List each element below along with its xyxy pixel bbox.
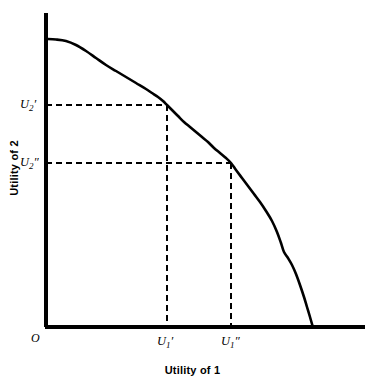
y-tick-u2-double-prime-base: U	[20, 155, 29, 169]
x-tick-u1-prime-base: U	[157, 334, 166, 348]
y-tick-u2-prime-mark: ′	[34, 97, 36, 111]
y-tick-u2-double-prime-mark: ″	[34, 155, 39, 169]
origin-label: O	[31, 331, 40, 346]
utility-possibility-frontier-figure: Utility of 2 Utility of 1 U2′ U2″ U1′ U1…	[0, 0, 385, 383]
x-tick-u1-prime-mark: ′	[171, 334, 173, 348]
axes-group	[45, 13, 365, 327]
y-tick-label-u2-prime: U2′	[20, 97, 36, 113]
x-tick-u1-double-prime-mark: ″	[235, 334, 240, 348]
y-axis-title: Utility of 2	[8, 118, 20, 218]
chart-canvas	[0, 0, 385, 383]
frontier-curve	[46, 39, 313, 327]
x-tick-label-u1-prime: U1′	[157, 334, 173, 350]
y-tick-label-u2-double-prime: U2″	[20, 155, 38, 171]
x-tick-u1-double-prime-base: U	[221, 334, 230, 348]
x-axis-title: Utility of 1	[0, 364, 385, 376]
x-tick-label-u1-double-prime: U1″	[221, 334, 239, 350]
y-tick-u2-prime-base: U	[20, 97, 29, 111]
